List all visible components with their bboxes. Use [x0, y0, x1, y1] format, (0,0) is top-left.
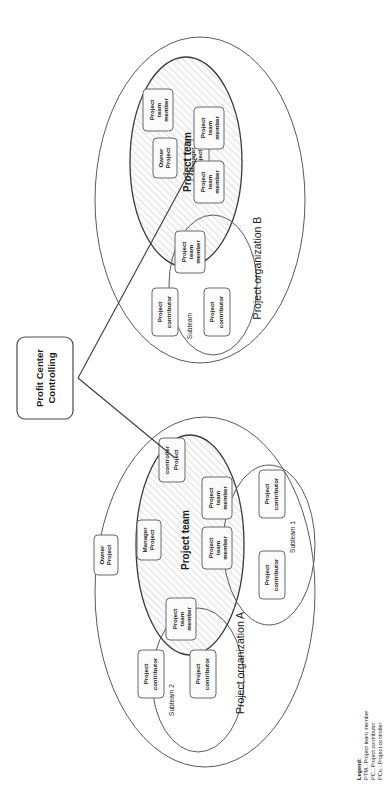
organization-a-group[interactable]: Project Owner Project Manager Project co… — [94, 417, 315, 767]
org-b-team-member-2-line2: team — [206, 120, 213, 135]
org-a-team-member-2[interactable]: Project team member — [202, 527, 232, 569]
org-b-contributor-1-line2: contributor — [165, 295, 172, 328]
org-a-project-team-label: Project team — [180, 510, 191, 570]
org-b-project-owner-label-line2: Owner — [157, 148, 164, 168]
diagram-canvas: Project Owner Project Manager Project te… — [0, 0, 389, 810]
org-a-subteam-2-contributor-1[interactable]: Project contributor — [138, 650, 164, 698]
legend-entry-ptm: PTM...Project team member — [363, 710, 369, 780]
org-a-subteam-2-contributor-2-line2: contributor — [203, 657, 210, 690]
org-a-project-manager-label-line1: Project — [148, 530, 155, 551]
legend-entry-pc: PC...Project contributor — [370, 722, 376, 780]
org-a-team-member-3[interactable]: Project team member — [166, 598, 196, 640]
org-b-contributor-2[interactable]: Project contributor — [204, 288, 230, 336]
org-a-subteam-1-label: Subteam 1 — [289, 521, 296, 553]
org-a-subteam-1-contributor-1[interactable]: Project contributor — [259, 470, 285, 518]
org-b-contributor-1[interactable]: Project contributor — [152, 288, 178, 336]
org-a-project-owner[interactable]: Project Owner — [94, 535, 118, 575]
connector-to-org-a — [78, 378, 175, 458]
org-b-contributor-2-line1: Project — [208, 302, 215, 323]
org-b-project-owner[interactable]: Project Owner — [153, 138, 177, 178]
org-a-subteam-2-contributor-2[interactable]: Project contributor — [190, 650, 216, 698]
org-b-subteam-label: Subteam — [186, 312, 193, 339]
org-a-subteam-1-contributor-2-line1: Project — [263, 565, 270, 586]
org-b-team-member-4[interactable]: Project team member — [175, 231, 205, 273]
org-b-contributor-1-line1: Project — [156, 302, 163, 323]
org-b-project-owner-label-line1: Project — [164, 148, 171, 169]
org-b-team-member-1-line1: Project — [148, 100, 155, 121]
org-a-project-manager[interactable]: Project Manager — [137, 520, 161, 560]
org-b-team-member-3-line2: team — [206, 174, 213, 189]
org-b-label: Project organization B — [251, 217, 263, 320]
org-a-project-owner-label-line2: Owner — [98, 545, 105, 565]
org-a-label: Project organization A — [234, 612, 246, 714]
org-a-project-owner-label-line1: Project — [105, 545, 112, 566]
org-a-team-member-2-line1: Project — [207, 538, 214, 559]
org-b-team-member-4-line2: team — [187, 244, 194, 259]
org-a-project-controller[interactable]: Project controller — [159, 438, 185, 482]
profit-center-controlling-line1: Profit Center — [34, 349, 45, 407]
org-b-team-member-1-line3: member — [162, 98, 169, 122]
org-a-subteam-2-contributor-1-line1: Project — [142, 664, 149, 685]
org-a-team-member-3-line2: team — [178, 611, 185, 626]
org-b-team-member-2[interactable]: Project team member — [194, 107, 224, 149]
profit-center-controlling-line2: Controlling — [46, 352, 57, 403]
org-b-team-member-4-line1: Project — [180, 242, 187, 263]
org-b-team-member-1-line2: team — [155, 102, 162, 117]
org-a-team-member-2-line2: team — [214, 540, 221, 555]
org-b-team-member-3-line3: member — [213, 170, 220, 194]
org-a-project-controller-line2: controller — [163, 445, 170, 474]
org-a-team-member-1-line1: Project — [207, 488, 214, 509]
org-a-subteam-1-contributor-2-line2: contributor — [272, 558, 279, 591]
org-b-team-member-4-line3: member — [194, 240, 201, 264]
org-a-subteam-2-contributor-2-line1: Project — [194, 664, 201, 685]
legend: Legend: PTM...Project team member PC...P… — [356, 710, 383, 780]
org-a-project-controller-line1: Project — [172, 450, 179, 471]
org-b-team-member-2-line1: Project — [199, 118, 206, 139]
org-a-subteam-1-contributor-1-line2: contributor — [272, 477, 279, 510]
org-a-subteam-2-label: Subteam 2 — [168, 684, 175, 716]
org-b-team-member-2-line3: member — [213, 116, 220, 140]
org-a-subteam-1-contributor-1-line1: Project — [263, 484, 270, 505]
org-a-team-member-3-line1: Project — [171, 609, 178, 630]
org-a-project-manager-label-line2: Manager — [141, 527, 148, 553]
org-b-team-member-3-line1: Project — [199, 172, 206, 193]
org-a-subteam-1-contributor-2[interactable]: Project contributor — [259, 551, 285, 599]
org-a-team-member-1-line2: team — [214, 490, 221, 505]
org-b-team-member-1[interactable]: Project team member — [143, 89, 173, 131]
legend-title: Legend: — [356, 758, 362, 780]
org-structure-diagram: Project Owner Project Manager Project te… — [0, 0, 389, 810]
organization-b-group[interactable]: Project Owner Project Manager Project te… — [95, 37, 305, 363]
org-a-team-member-1[interactable]: Project team member — [202, 477, 232, 519]
org-b-contributor-2-line2: contributor — [217, 295, 224, 328]
org-a-subteam-2-contributor-1-line2: contributor — [151, 657, 158, 690]
org-b-team-member-3[interactable]: Project team member — [194, 161, 224, 203]
org-a-team-member-2-line3: member — [221, 536, 228, 560]
org-a-team-member-1-line3: member — [221, 486, 228, 510]
legend-entry-pco: PCo...Project controller — [377, 722, 383, 780]
org-a-team-member-3-line3: member — [185, 607, 192, 631]
